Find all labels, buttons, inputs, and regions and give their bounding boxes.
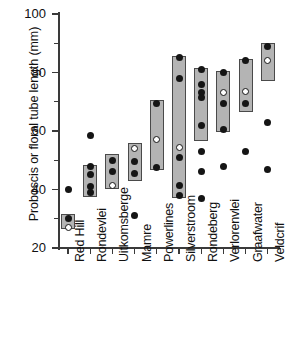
data-point-filled xyxy=(65,186,72,193)
x-tick-1 xyxy=(90,248,91,254)
y-tick-label-100: 100 xyxy=(0,7,46,20)
data-point-filled xyxy=(176,75,183,82)
data-point-filled xyxy=(220,163,227,170)
x-axis-label-1: Rondevlei xyxy=(95,208,109,262)
x-axis-label-2: Uitkomsberge xyxy=(117,187,131,262)
data-point-filled xyxy=(198,94,205,101)
x-tick-6 xyxy=(201,248,202,254)
data-point-filled xyxy=(176,54,183,61)
data-point-filled xyxy=(198,195,205,202)
y-tick-label-80: 80 xyxy=(0,66,46,79)
data-point-filled xyxy=(176,182,183,189)
x-axis-label-8: Graafwater xyxy=(251,202,265,262)
x-axis-label-0: Red Hill xyxy=(73,220,87,262)
x-axis-label-3: Mamre xyxy=(140,224,154,262)
x-axis-label-7: Verlorenvlei xyxy=(228,199,242,262)
data-point-filled xyxy=(242,148,249,155)
data-point-filled xyxy=(176,192,183,199)
data-point-open xyxy=(65,224,72,231)
range-box xyxy=(194,68,208,141)
x-tick-4 xyxy=(156,248,157,254)
y-tick-label-60: 60 xyxy=(0,124,46,137)
data-point-filled xyxy=(264,166,271,173)
chart-figure: Proboscis or floral tube length (mm) 100… xyxy=(0,0,286,358)
x-axis-label-9: Veldcrif xyxy=(273,223,286,262)
x-tick-2 xyxy=(112,248,113,254)
x-tick-9 xyxy=(267,248,268,254)
x-axis-label-5: Silverstroom xyxy=(184,195,198,262)
x-axis-label-6: Rondeberg xyxy=(206,202,220,262)
x-tick-0 xyxy=(67,248,68,254)
data-point-filled xyxy=(198,66,205,73)
data-point-filled xyxy=(87,189,94,196)
data-point-filled xyxy=(198,122,205,129)
data-point-filled xyxy=(176,154,183,161)
data-point-filled xyxy=(65,215,72,222)
x-tick-8 xyxy=(245,248,246,254)
x-tick-7 xyxy=(223,248,224,254)
data-point-filled xyxy=(87,132,94,139)
data-point-filled xyxy=(220,126,227,133)
x-tick-3 xyxy=(134,248,135,254)
data-point-open xyxy=(109,182,116,189)
x-axis-label-4: Powerlines xyxy=(162,203,176,262)
data-point-filled xyxy=(264,119,271,126)
data-point-filled xyxy=(153,100,160,107)
data-point-filled xyxy=(87,163,94,170)
data-point-filled xyxy=(198,81,205,88)
data-point-filled xyxy=(131,170,138,177)
data-point-filled xyxy=(264,43,271,50)
data-point-open xyxy=(176,144,183,151)
y-tick-label-20: 20 xyxy=(0,241,46,254)
data-point-filled xyxy=(109,157,116,164)
y-tick-label-40: 40 xyxy=(0,183,46,196)
data-point-filled xyxy=(220,69,227,76)
data-point-filled xyxy=(242,100,249,107)
x-tick-5 xyxy=(178,248,179,254)
data-point-filled xyxy=(198,148,205,155)
data-point-filled xyxy=(220,100,227,107)
